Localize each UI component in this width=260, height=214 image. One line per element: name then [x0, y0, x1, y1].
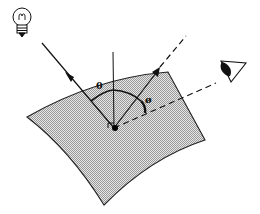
eye-icon — [221, 61, 247, 82]
light-bulb-icon — [13, 8, 31, 37]
phi-label: ø — [145, 94, 152, 105]
surface-patch — [27, 72, 205, 205]
surface-point — [112, 125, 118, 131]
theta-label: θ — [96, 80, 103, 91]
incident-arrowhead — [65, 72, 74, 82]
reflection-diagram: θ ø — [0, 0, 260, 214]
